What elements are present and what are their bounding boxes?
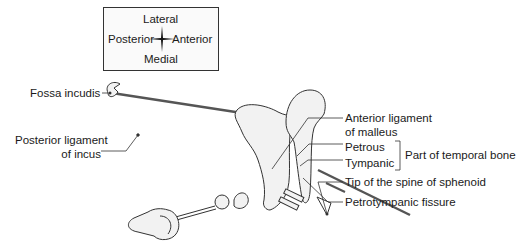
label-petrous: Petrous — [345, 140, 385, 154]
posterior-ligament-of-incus — [112, 93, 242, 113]
compass-cross-icon — [149, 26, 175, 52]
label-posterior-ligament-2: of incus — [15, 147, 101, 161]
label-part-of-temporal-bone: Part of temporal bone — [405, 148, 516, 162]
spine-of-sphenoid — [317, 197, 331, 215]
incus-lenticular — [234, 193, 248, 209]
label-petrotympanic-fissure: Petrotympanic fissure — [345, 195, 456, 209]
label-tympanic: Tympanic — [345, 156, 394, 170]
orientation-compass: Lateral Posterior Anterior Medial — [103, 7, 219, 71]
compass-medial: Medial — [144, 52, 178, 66]
stapes-bone — [128, 209, 178, 240]
label-anterior-ligament-1: Anterior ligament — [345, 111, 432, 125]
label-posterior-ligament-1: Posterior ligament — [15, 133, 101, 147]
label-fossa-incudis: Fossa incudis — [30, 86, 100, 100]
compass-anterior: Anterior — [172, 32, 212, 46]
label-anterior-ligament-2: of malleus — [345, 125, 397, 139]
compass-posterior: Posterior — [108, 32, 154, 46]
label-tip-spine-sphenoid: Tip of the spine of sphenoid — [345, 175, 486, 189]
anterior-ligament-of-malleus — [326, 183, 345, 192]
compass-lateral: Lateral — [143, 12, 178, 26]
